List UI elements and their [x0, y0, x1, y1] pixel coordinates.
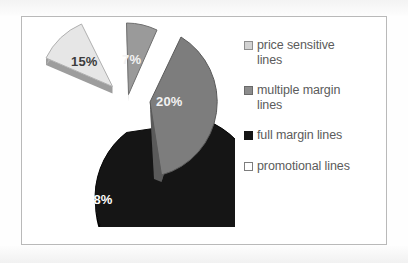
pie-chart-svg: 58% 15% 7% 20%	[30, 22, 235, 227]
pie-slice-label-price-sensitive-lines: 7%	[122, 52, 141, 67]
pie-slice-promotional-lines[interactable]: 15%	[46, 24, 113, 94]
pie-slice-label-promotional-lines: 15%	[71, 54, 98, 69]
white-square-icon	[244, 162, 253, 171]
pie-slice-price-sensitive-lines[interactable]: 7%	[122, 23, 157, 102]
pie-chart-figure: 58% 15% 7% 20%	[0, 0, 408, 263]
page-scan-tint-top	[0, 0, 408, 16]
legend-item-promotional-lines[interactable]: promotional lines	[244, 159, 386, 174]
legend-label-promotional-lines: promotional lines	[257, 159, 350, 174]
legend-label-price-sensitive-lines: price sensitive lines	[257, 38, 335, 67]
legend-item-full-margin-lines[interactable]: full margin lines	[244, 128, 386, 143]
legend-label-multiple-margin-lines: multiple margin lines	[257, 83, 340, 112]
pie-slice-label-multiple-margin-lines: 20%	[156, 94, 183, 109]
black-square-icon	[244, 131, 253, 140]
pie-slice-label-full-margin-lines: 58%	[86, 192, 113, 207]
light-gray-square-icon	[244, 41, 253, 50]
legend-item-price-sensitive-lines[interactable]: price sensitive lines	[244, 38, 386, 67]
medium-gray-square-icon	[244, 86, 253, 95]
page-scan-tint-bottom	[0, 246, 408, 263]
pie-chart-plot-area: 58% 15% 7% 20%	[30, 22, 235, 227]
legend-item-multiple-margin-lines[interactable]: multiple margin lines	[244, 83, 386, 112]
chart-legend: price sensitive lines multiple margin li…	[244, 38, 386, 189]
legend-label-full-margin-lines: full margin lines	[257, 128, 342, 143]
